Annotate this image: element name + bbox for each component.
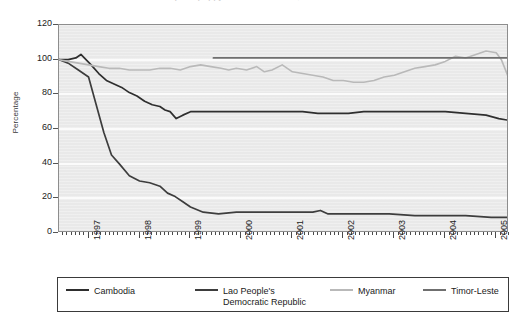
x-tick-minor [308, 232, 309, 235]
x-tick-minor [126, 232, 127, 235]
x-tick-minor [177, 232, 178, 235]
legend-item[interactable]: Cambodia [66, 285, 135, 296]
x-tick-minor [487, 232, 488, 235]
x-tick-minor [470, 232, 471, 235]
x-tick-minor [279, 232, 280, 235]
y-tick-label: 60 [24, 123, 52, 132]
x-tick-minor [66, 232, 67, 235]
x-tick-label: 1999 [193, 220, 203, 240]
legend-item[interactable]: Timor-Leste [423, 285, 499, 296]
x-tick-minor [83, 232, 84, 235]
x-tick-minor [287, 232, 288, 235]
x-tick-minor [232, 232, 233, 235]
x-tick-minor [338, 232, 339, 235]
x-tick-minor [122, 232, 123, 235]
x-tick-minor [483, 232, 484, 235]
x-tick-label: 1998 [143, 220, 153, 240]
x-axis-ticks [58, 232, 508, 240]
x-tick-minor [164, 232, 165, 235]
x-tick-major [189, 232, 190, 238]
x-tick-minor [257, 232, 258, 235]
x-tick-minor [262, 232, 263, 235]
legend-swatch-icon [330, 289, 353, 291]
x-tick-minor [368, 232, 369, 235]
series-lines [59, 25, 508, 232]
x-tick-minor [381, 232, 382, 235]
x-tick-minor [334, 232, 335, 235]
x-tick-label: 2003 [397, 220, 407, 240]
legend-label-line2: Democratic Republic [223, 297, 306, 307]
x-tick-minor [156, 232, 157, 235]
x-tick-minor [172, 232, 173, 235]
x-tick-minor [113, 232, 114, 235]
x-tick-minor [427, 232, 428, 235]
chart-legend: CambodiaLao People'sDemocratic RepublicM… [57, 277, 509, 312]
x-tick-minor [440, 232, 441, 235]
x-tick-minor [266, 232, 267, 235]
legend-label: Cambodia [94, 286, 135, 296]
x-tick-minor [109, 232, 110, 235]
legend-label: Timor-Leste [451, 286, 499, 296]
x-tick-minor [219, 232, 220, 235]
x-tick-minor [105, 232, 106, 235]
x-tick-label: 2002 [346, 220, 356, 240]
x-tick-minor [117, 232, 118, 235]
x-tick-minor [461, 232, 462, 235]
x-tick-minor [419, 232, 420, 235]
x-tick-label: 1997 [92, 220, 102, 240]
legend-swatch-icon [66, 289, 89, 291]
plot-area [58, 24, 508, 232]
chart-title-cutoff: Opium poppy cultivation trends, 1996-200… [0, 0, 515, 9]
chart-title-text: Opium poppy cultivation trends, 1996-200… [168, 0, 348, 1]
x-tick-major [139, 232, 140, 238]
x-tick-minor [376, 232, 377, 235]
series-line-cambodia [59, 54, 508, 120]
x-tick-minor [215, 232, 216, 235]
x-tick-minor [313, 232, 314, 235]
y-tick-label: 120 [24, 19, 52, 28]
x-tick-minor [330, 232, 331, 235]
legend-swatch-icon [195, 289, 218, 291]
y-axis-title: Percentage [11, 78, 20, 148]
x-tick-minor [410, 232, 411, 235]
x-tick-minor [62, 232, 63, 235]
x-tick-minor [79, 232, 80, 235]
y-tick-label: 80 [24, 88, 52, 97]
x-tick-minor [321, 232, 322, 235]
x-tick-minor [466, 232, 467, 235]
y-tick-label: 20 [24, 192, 52, 201]
x-tick-minor [491, 232, 492, 235]
legend-label: Lao People's [223, 286, 275, 296]
x-tick-minor [317, 232, 318, 235]
x-tick-minor [372, 232, 373, 235]
legend-item[interactable]: Myanmar [330, 285, 396, 296]
x-tick-major [342, 232, 343, 238]
x-tick-minor [134, 232, 135, 235]
x-tick-minor [223, 232, 224, 235]
x-tick-major [444, 232, 445, 238]
x-tick-minor [206, 232, 207, 235]
legend-swatch-icon [423, 289, 446, 291]
x-tick-minor [478, 232, 479, 235]
legend-label: Myanmar [358, 286, 396, 296]
x-tick-label: 2001 [295, 220, 305, 240]
x-tick-label: 2000 [244, 220, 254, 240]
x-tick-minor [181, 232, 182, 235]
x-tick-minor [325, 232, 326, 235]
x-tick-minor [236, 232, 237, 235]
x-tick-minor [364, 232, 365, 235]
x-tick-label: 2004 [448, 220, 458, 240]
x-tick-label: 2005 [499, 220, 509, 240]
x-tick-minor [436, 232, 437, 235]
series-line-myanmar [59, 51, 508, 82]
series-line-lao [59, 60, 508, 218]
y-tick-label: 40 [24, 158, 52, 167]
x-tick-minor [75, 232, 76, 235]
y-tick-label: 0 [24, 227, 52, 236]
x-tick-minor [385, 232, 386, 235]
y-tick-label: 100 [24, 54, 52, 63]
x-tick-minor [423, 232, 424, 235]
legend-item[interactable]: Lao People's [195, 285, 275, 296]
x-axis-tick-labels: 199719981999200020012002200320042005 [0, 240, 515, 274]
x-tick-minor [228, 232, 229, 235]
